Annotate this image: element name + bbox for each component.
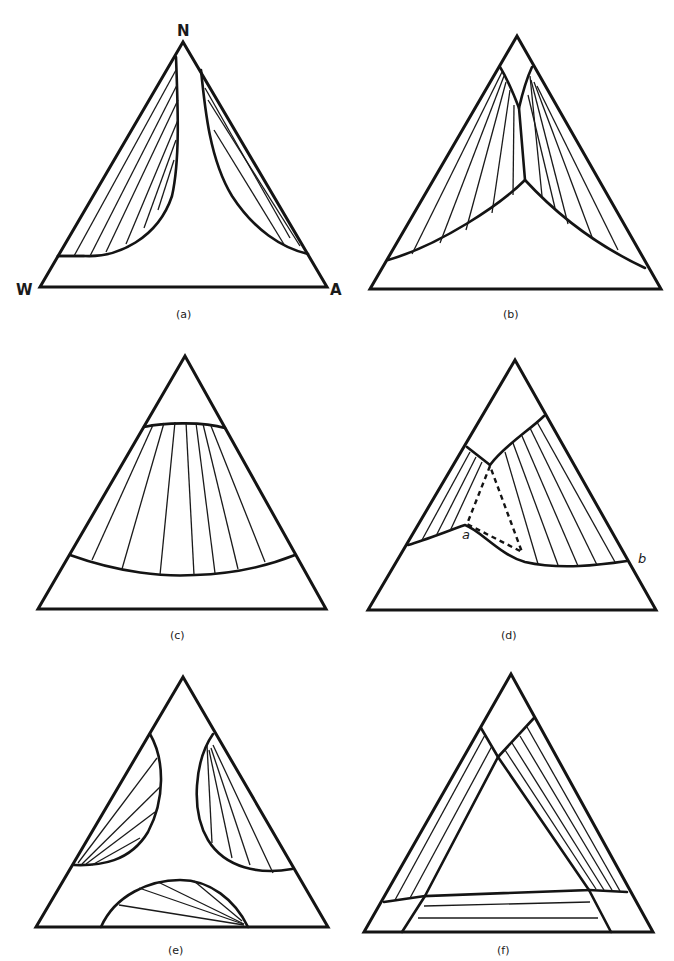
band-left-inner [402,896,425,932]
triangle-outline [40,42,327,287]
panel-caption-c: (c) [170,629,185,642]
binodal-lobe-right [197,734,292,871]
panel-caption-b: (b) [503,308,519,321]
band-left-edge [481,728,498,757]
tie-lines-bottom [119,881,244,925]
tie-lines-right [207,745,273,873]
point-label-a: a [462,527,470,542]
tie-lines-left [74,70,178,256]
tie-lines-right [505,422,615,566]
panel-b: (b) [370,36,661,321]
tie-lines-bottom [418,902,598,918]
triangle-outline [38,356,326,609]
ternary-diagram-figure: N W A (a) (b) [0,0,674,961]
vertex-label-a: A [330,281,342,299]
triangle-outline [368,360,656,610]
panel-a: N W A (a) [16,22,342,321]
triangle-outline [36,677,328,927]
vertex-label-w: W [16,281,33,299]
band-right-bottom [589,890,627,892]
panel-caption-a: (a) [176,308,191,321]
panel-caption-e: (e) [168,944,183,957]
binodal-curve-lower [70,555,295,575]
boundary-upper-left [467,447,490,465]
tie-lines [92,422,265,575]
band-left-bottom [384,896,425,902]
tie-lines-left [395,735,492,900]
binodal-curve-right [519,67,645,268]
tie-lines-left [78,758,160,865]
binodal-curve-upper [144,423,225,428]
panel-caption-d: (d) [501,629,517,642]
band-right-inner [589,890,611,932]
tie-lines-right [505,727,620,891]
panel-caption-f: (f) [497,944,509,957]
binodal-lobe-bottom [101,880,248,927]
vertex-label-n: N [177,22,190,40]
panel-c: (c) [38,356,326,642]
three-phase-triangle [467,466,522,552]
panel-f: (f) [364,674,653,957]
panel-e: (e) [36,677,328,957]
panel-d: a b (d) [368,360,656,642]
point-label-b: b [638,551,646,566]
